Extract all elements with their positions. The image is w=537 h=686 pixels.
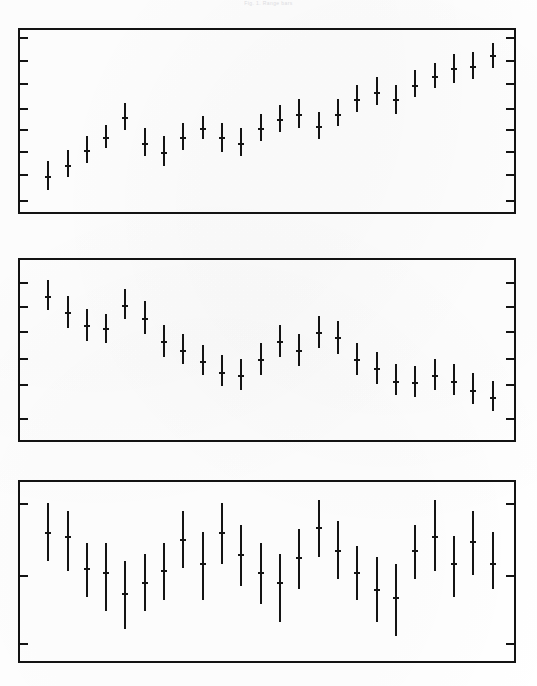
range-bar-center-marker xyxy=(84,568,90,570)
axis-tick-right-2 xyxy=(506,575,514,577)
range-bar xyxy=(395,364,397,395)
range-bar-center-marker xyxy=(238,375,244,377)
range-bar-center-marker xyxy=(142,318,148,320)
range-bar-center-marker xyxy=(412,550,418,552)
range-bar-center-marker xyxy=(354,99,360,101)
range-bar-center-marker xyxy=(451,563,457,565)
range-bar-center-marker xyxy=(180,137,186,139)
axis-tick-left-3 xyxy=(20,643,28,645)
range-bar-center-marker xyxy=(451,68,457,70)
range-bar-center-marker xyxy=(122,305,128,307)
axis-tick-left-4 xyxy=(20,108,28,110)
range-bar xyxy=(240,128,242,155)
range-bar-center-marker xyxy=(277,119,283,121)
axis-tick-right-1 xyxy=(506,503,514,505)
range-bar-center-marker xyxy=(65,312,71,314)
range-bar-center-marker xyxy=(296,350,302,352)
axis-tick-left-6 xyxy=(20,151,28,153)
axis-tick-left-7 xyxy=(20,174,28,176)
axis-tick-right-3 xyxy=(506,643,514,645)
axis-tick-left-3 xyxy=(20,331,28,333)
axis-tick-left-1 xyxy=(20,282,28,284)
range-bar-center-marker xyxy=(142,143,148,145)
range-bar xyxy=(453,364,455,395)
range-bar-center-marker xyxy=(470,390,476,392)
range-bar-center-marker xyxy=(219,532,225,534)
axis-tick-right-4 xyxy=(506,358,514,360)
range-bar-center-marker xyxy=(103,328,109,330)
range-bar xyxy=(279,554,281,622)
range-bar-center-marker xyxy=(180,350,186,352)
range-bar-center-marker xyxy=(200,361,206,363)
range-bar-center-marker xyxy=(122,117,128,119)
range-bar xyxy=(414,70,416,97)
range-bar-center-marker xyxy=(45,176,51,178)
axis-tick-right-5 xyxy=(506,384,514,386)
range-bar-center-marker xyxy=(374,589,380,591)
range-bar-center-marker xyxy=(335,337,341,339)
range-bar-center-marker xyxy=(335,550,341,552)
range-bar-center-marker xyxy=(354,359,360,361)
range-bar-center-marker xyxy=(432,375,438,377)
axis-tick-right-2 xyxy=(506,306,514,308)
axis-tick-left-5 xyxy=(20,384,28,386)
range-bar-center-marker xyxy=(335,114,341,116)
range-bar xyxy=(472,373,474,404)
axis-tick-right-3 xyxy=(506,331,514,333)
range-bar-center-marker xyxy=(412,382,418,384)
range-bar-center-marker xyxy=(412,85,418,87)
range-bar-center-marker xyxy=(316,332,322,334)
range-bar-center-marker xyxy=(470,541,476,543)
figure-caption: Fig. 1. Range bars xyxy=(0,0,537,6)
range-bar xyxy=(67,511,69,572)
axis-tick-right-8 xyxy=(506,200,514,202)
range-bar xyxy=(221,355,223,386)
range-bar-center-marker xyxy=(354,572,360,574)
range-bar-center-marker xyxy=(296,557,302,559)
range-bar-center-marker xyxy=(161,341,167,343)
range-bar-center-marker xyxy=(219,372,225,374)
range-bar-center-marker xyxy=(393,381,399,383)
range-bar-center-marker xyxy=(258,359,264,361)
range-bar xyxy=(376,77,378,104)
range-bar xyxy=(105,543,107,611)
axis-tick-right-1 xyxy=(506,37,514,39)
range-bar-center-marker xyxy=(45,296,51,298)
range-bar xyxy=(492,381,494,412)
range-bar-center-marker xyxy=(258,128,264,130)
axis-tick-left-8 xyxy=(20,200,28,202)
range-bar-center-marker xyxy=(200,128,206,130)
axis-tick-left-1 xyxy=(20,503,28,505)
range-bar xyxy=(453,536,455,597)
range-bar-center-marker xyxy=(490,563,496,565)
range-bar-center-marker xyxy=(65,165,71,167)
plot-area-3 xyxy=(20,482,514,661)
axis-tick-left-2 xyxy=(20,306,28,308)
axis-tick-right-5 xyxy=(506,129,514,131)
range-bar-center-marker xyxy=(490,397,496,399)
range-bar-center-marker xyxy=(277,341,283,343)
chart-panel-3 xyxy=(18,480,516,663)
range-bar xyxy=(337,99,339,126)
range-bar-center-marker xyxy=(316,126,322,128)
axis-tick-right-2 xyxy=(506,60,514,62)
plot-area-2 xyxy=(20,260,514,440)
axis-tick-right-1 xyxy=(506,282,514,284)
range-bar-center-marker xyxy=(470,66,476,68)
range-bar-center-marker xyxy=(45,532,51,534)
range-bar xyxy=(202,532,204,600)
axis-tick-right-7 xyxy=(506,174,514,176)
range-bar-center-marker xyxy=(432,76,438,78)
range-bar-center-marker xyxy=(200,563,206,565)
axis-tick-left-4 xyxy=(20,358,28,360)
range-bar-center-marker xyxy=(84,325,90,327)
range-bar-center-marker xyxy=(180,539,186,541)
range-bar-center-marker xyxy=(374,92,380,94)
range-bar-center-marker xyxy=(490,55,496,57)
plot-area-1 xyxy=(20,30,514,212)
range-bar-center-marker xyxy=(65,536,71,538)
axis-tick-left-6 xyxy=(20,418,28,420)
range-bar-center-marker xyxy=(451,381,457,383)
axis-tick-right-4 xyxy=(506,108,514,110)
chart-panel-2 xyxy=(18,258,516,442)
